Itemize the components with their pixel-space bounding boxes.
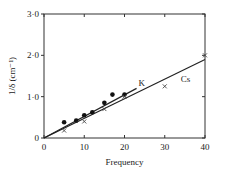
annotation-cs: Cs [181,74,191,84]
fit-line-cs [44,59,205,138]
y-tick-label: 1·0 [27,92,39,102]
y-tick-label: 0 [35,133,40,143]
data-point-k [102,101,107,106]
x-tick-label: 40 [201,142,211,152]
x-tick-label: 20 [120,142,130,152]
x-axis-label: Frequency [106,157,144,167]
y-tick-label: 2·0 [27,50,39,60]
chart: 01020304001·02·03·0Frequency1/δ (cm⁻¹)KC… [0,0,226,178]
data-point-cs [62,129,66,133]
data-point-cs [82,119,86,123]
y-tick-label: 3·0 [27,9,39,19]
data-point-cs [163,84,167,88]
y-axis-label: 1/δ (cm⁻¹) [7,57,17,95]
x-tick-label: 30 [160,142,170,152]
x-tick-label: 10 [80,142,90,152]
data-point-k [82,113,87,118]
x-tick-label: 0 [42,142,47,152]
data-point-k [110,92,115,97]
data-point-k [62,120,67,125]
annotation-k: K [139,78,146,88]
